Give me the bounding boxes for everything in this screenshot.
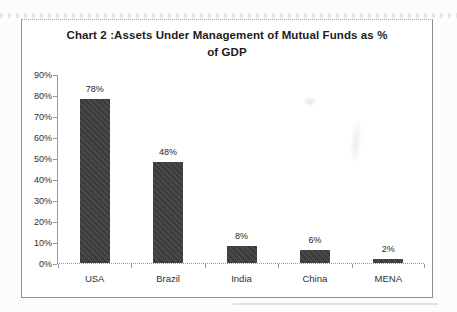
y-tick-label: 30% [16, 196, 52, 206]
bar-value-label-mena: 2% [363, 244, 413, 254]
bar-brazil [153, 162, 183, 263]
plot-area: 90%80%70%60%50%40%30%20%10%0% 78%48%8%6%… [57, 75, 424, 264]
bar-usa [80, 99, 110, 263]
y-tick-label: 0% [16, 259, 52, 269]
y-tick-mark [53, 138, 57, 139]
y-tick-mark [53, 75, 57, 76]
y-tick-mark [53, 159, 57, 160]
y-tick-mark [53, 180, 57, 181]
y-tick-mark [53, 96, 57, 97]
bar-value-label-india: 8% [217, 231, 267, 241]
bar-value-label-usa: 78% [70, 84, 120, 94]
y-tick-mark [53, 264, 57, 265]
y-tick-mark [53, 117, 57, 118]
x-tick-mark [278, 264, 279, 268]
chart-title-line2: of GDP [22, 44, 432, 61]
y-tick-mark [53, 201, 57, 202]
x-category-label-usa: USA [58, 273, 131, 284]
y-tick-label: 50% [16, 154, 52, 164]
x-category-label-india: India [205, 273, 278, 284]
y-tick-label: 40% [16, 175, 52, 185]
scan-artifact-bottom [233, 303, 438, 305]
chart-title-line1: Chart 2 :Assets Under Management of Mutu… [22, 27, 432, 44]
y-tick-label: 90% [16, 70, 52, 80]
y-tick-label: 60% [16, 133, 52, 143]
y-tick-label: 80% [16, 91, 52, 101]
x-category-label-china: China [278, 273, 351, 284]
y-tick-mark [53, 243, 57, 244]
y-tick-label: 20% [16, 217, 52, 227]
scanned-page: Chart 2 :Assets Under Management of Mutu… [0, 0, 457, 312]
bar-value-label-china: 6% [290, 235, 340, 245]
x-category-label-brazil: Brazil [131, 273, 204, 284]
y-tick-label: 10% [16, 238, 52, 248]
x-tick-mark [131, 264, 132, 268]
bar-value-label-brazil: 48% [143, 147, 193, 157]
chart-frame: Chart 2 :Assets Under Management of Mutu… [21, 19, 433, 298]
x-tick-mark [205, 264, 206, 268]
scan-artifact-top [0, 13, 457, 18]
x-tick-mark [424, 264, 425, 268]
bar-mena [373, 259, 403, 263]
y-tick-label: 70% [16, 112, 52, 122]
x-category-label-mena: MENA [352, 273, 425, 284]
x-tick-mark [352, 264, 353, 268]
bar-china [300, 250, 330, 263]
bar-india [227, 246, 257, 263]
y-tick-mark [53, 222, 57, 223]
chart-title: Chart 2 :Assets Under Management of Mutu… [22, 27, 432, 61]
x-tick-mark [58, 264, 59, 268]
